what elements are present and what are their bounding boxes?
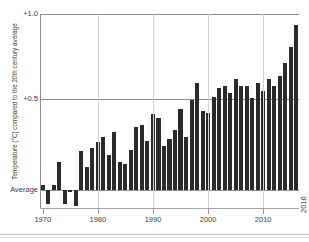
bar-1976 (74, 190, 78, 206)
x-tick-label-2016: 2016 (299, 196, 308, 213)
bar-2013 (278, 76, 282, 190)
x-tick-2010 (263, 208, 264, 214)
bar-1971 (46, 190, 50, 204)
y-axis-title: Temperature (°C) compared to the 20th ce… (11, 17, 18, 187)
bar-1989 (145, 141, 149, 190)
bar-1978 (85, 167, 89, 190)
vertical-gridline-1980 (98, 14, 99, 208)
bar-2011 (267, 79, 271, 190)
bar-2009 (256, 83, 260, 190)
x-tick-2000 (208, 208, 209, 214)
vertical-gridline-1990 (153, 14, 154, 208)
bar-1982 (107, 155, 111, 190)
x-tick-label-1980: 1980 (90, 215, 107, 224)
bar-1993 (167, 139, 171, 190)
x-tick-label-2010: 2010 (255, 215, 272, 224)
bar-1998 (195, 83, 199, 190)
x-tick-label-2000: 2000 (200, 215, 217, 224)
bar-1986 (129, 150, 133, 190)
bar-1973 (57, 162, 61, 190)
page-rule-lower (0, 237, 309, 238)
y-tick-label-top: +1.0 (23, 9, 38, 18)
bar-2006 (239, 86, 243, 190)
bar-1984 (118, 162, 122, 190)
bar-1975 (68, 190, 72, 192)
y-tick-label-mid: +0.5 (23, 94, 38, 103)
bar-1995 (178, 109, 182, 190)
vertical-gridline-2000 (208, 14, 209, 208)
bar-2014 (283, 63, 287, 190)
bar-1996 (184, 137, 188, 190)
bar-2004 (228, 93, 232, 190)
vertical-gridline-2010 (263, 14, 264, 208)
x-tick-1980 (98, 208, 99, 214)
bar-2012 (272, 86, 276, 190)
bar-2005 (234, 79, 238, 190)
bar-1997 (190, 100, 194, 190)
bar-1983 (112, 132, 116, 190)
x-tick-label-1990: 1990 (145, 215, 162, 224)
bar-2015 (289, 47, 293, 190)
bar-2002 (217, 88, 221, 190)
bar-2007 (245, 86, 249, 190)
x-tick-label-1970: 1970 (34, 215, 51, 224)
bar-2003 (223, 86, 227, 190)
bar-2016 (294, 25, 298, 190)
bar-2001 (212, 97, 216, 190)
bar-1991 (156, 118, 160, 190)
bar-1977 (79, 151, 83, 190)
bar-1994 (173, 130, 177, 190)
page-rule-upper (0, 234, 309, 235)
bar-1985 (123, 164, 127, 190)
bar-1970 (41, 185, 45, 190)
bar-1988 (140, 125, 144, 190)
bar-1999 (201, 111, 205, 190)
bar-series (40, 14, 299, 208)
temperature-anomaly-bar-chart: +1.0 +0.5 Average Temperature (°C) compa… (0, 0, 309, 242)
bar-1987 (134, 127, 138, 190)
bar-1972 (52, 185, 56, 190)
x-axis-line (40, 208, 299, 209)
bar-1979 (90, 148, 94, 190)
bar-1981 (101, 137, 105, 190)
bar-2008 (250, 98, 254, 190)
x-tick-1990 (153, 208, 154, 214)
x-tick-1970 (43, 208, 44, 214)
bar-1974 (63, 190, 67, 204)
bar-1992 (162, 146, 166, 190)
